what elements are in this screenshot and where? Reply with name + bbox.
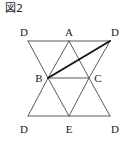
vertex-label-D_bottomright: D	[111, 123, 119, 135]
vertex-label-A: A	[65, 26, 73, 38]
vertex-label-D_bottomleft: D	[20, 123, 28, 135]
geometry-diagram: DADBCDED	[0, 0, 131, 146]
vertex-label-D_topright: D	[111, 26, 119, 38]
vertex-label-B: B	[35, 72, 42, 84]
vertex-label-C: C	[94, 72, 101, 84]
figure-container: 図2 DADBCDED	[0, 0, 131, 146]
segment-lower-e-c	[69, 78, 89, 116]
vertex-label-E: E	[66, 123, 73, 135]
segment-lower-b-e	[48, 78, 69, 116]
vertex-label-D_topleft: D	[20, 26, 28, 38]
